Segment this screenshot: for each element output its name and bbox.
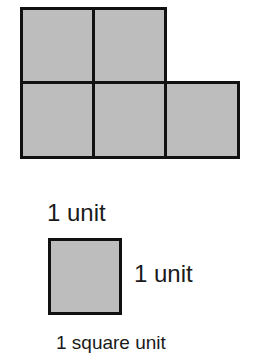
unit-square-r2-c1	[20, 81, 95, 159]
unit-square-r1-c2	[92, 7, 167, 84]
unit-square-r1-c1	[20, 7, 95, 84]
unit-square-r2-c3	[164, 81, 240, 159]
unit-square-r2-c2	[92, 81, 167, 159]
legend-unit-square	[48, 238, 122, 315]
square-unit-caption: 1 square unit	[56, 332, 166, 354]
side-unit-label: 1 unit	[134, 260, 193, 288]
top-unit-label: 1 unit	[47, 199, 106, 227]
